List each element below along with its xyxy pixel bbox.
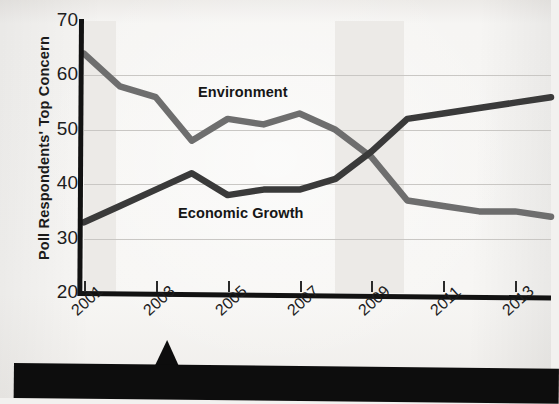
y-tick-label: 40 <box>32 172 78 194</box>
line-economic-growth <box>84 97 551 222</box>
series-label-economic-growth: Economic Growth <box>178 205 304 221</box>
series-label-environment: Environment <box>198 84 288 100</box>
banner-pointer-triangle <box>155 340 179 366</box>
y-axis-tick-labels: 706050403020 <box>22 0 78 330</box>
plot-area <box>84 21 551 293</box>
bottom-banner <box>14 363 559 404</box>
y-tick-label: 50 <box>32 118 78 140</box>
y-tick-label: 60 <box>32 63 78 85</box>
y-tick-label: 20 <box>32 281 78 303</box>
series-lines <box>84 21 551 293</box>
y-tick-label: 70 <box>32 9 78 31</box>
y-tick-label: 30 <box>32 227 78 249</box>
